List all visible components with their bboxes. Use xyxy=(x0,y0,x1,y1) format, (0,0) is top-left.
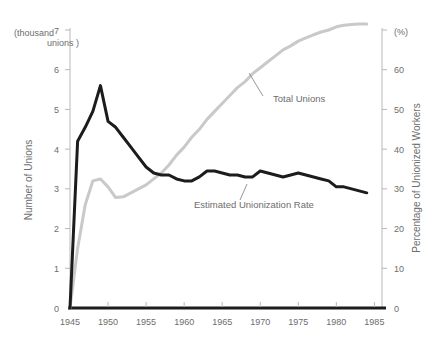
left-axis-tick-label: 4 xyxy=(54,145,59,155)
right-axis-tick-label: 30 xyxy=(394,184,404,194)
right-axis-tick-label: 10 xyxy=(394,264,404,274)
right-axis-tick-label: 20 xyxy=(394,224,404,234)
left-axis-tick-label: 2 xyxy=(54,224,59,234)
right-axis-unit: (%) xyxy=(394,27,408,37)
x-axis-tick-label: 1945 xyxy=(60,317,80,327)
right-axis-tick-label: 40 xyxy=(394,145,404,155)
right-axis-tick-label: 60 xyxy=(394,65,404,75)
x-axis-tick-label: 1970 xyxy=(250,317,270,327)
left-axis-tick-label: 5 xyxy=(54,105,59,115)
right-axis-tick-label: 0 xyxy=(394,304,399,314)
chart-container: 0123456701020304050601945195019551960196… xyxy=(0,0,442,345)
annotation-label: Estimated Unionization Rate xyxy=(194,199,314,210)
x-axis-tick-label: 1965 xyxy=(212,317,232,327)
x-axis-tick-label: 1960 xyxy=(174,317,194,327)
left-axis-unit-line2: unions ) xyxy=(47,38,79,48)
x-axis-tick-label: 1980 xyxy=(326,317,346,327)
x-axis-tick-label: 1955 xyxy=(136,317,156,327)
left-axis-tick-label: 3 xyxy=(54,184,59,194)
union-statistics-line-chart: 0123456701020304050601945195019551960196… xyxy=(0,0,442,345)
x-axis-tick-label: 1950 xyxy=(98,317,118,327)
left-axis-tick-label: 7 xyxy=(54,26,59,36)
annotation-label: Total Unions xyxy=(273,93,326,104)
left-axis-unit-line1: (thousand xyxy=(14,28,54,38)
x-axis-tick-label: 1975 xyxy=(288,317,308,327)
x-axis-tick-label: 1985 xyxy=(364,317,384,327)
right-axis-tick-label: 50 xyxy=(394,105,404,115)
left-axis-tick-label: 0 xyxy=(54,304,59,314)
right-axis-title: Percentage of Unionized Workers xyxy=(411,103,422,252)
left-axis-tick-label: 6 xyxy=(54,65,59,75)
left-axis-tick-label: 1 xyxy=(54,264,59,274)
left-axis-title: Number of Unions xyxy=(23,140,34,221)
